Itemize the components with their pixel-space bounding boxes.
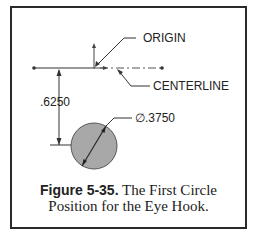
figure-number: Figure 5-35. <box>40 182 119 198</box>
centerline-leader <box>118 70 150 86</box>
figure-caption: Figure 5-35. The First Circle Position f… <box>12 182 245 214</box>
vertical-dimension-label: .6250 <box>40 95 70 109</box>
origin-x-arrow <box>103 66 108 70</box>
centerline-endpoint <box>160 66 164 70</box>
diameter-leader <box>106 118 132 126</box>
caption-line1: The First Circle <box>119 182 217 198</box>
line-endpoint <box>32 66 36 70</box>
centerline-leader-arrow <box>117 69 123 75</box>
dim-arrow-bottom <box>57 138 62 145</box>
diameter-label: ∅.3750 <box>135 111 175 125</box>
caption-line2: Position for the Eye Hook. <box>12 198 245 214</box>
dim-arrow-top <box>57 69 62 76</box>
origin-leader-arrow <box>95 61 100 67</box>
origin-label: ORIGIN <box>143 31 186 45</box>
centerline-label: CENTERLINE <box>153 79 229 93</box>
origin-leader <box>97 38 136 65</box>
origin-y-arrow <box>92 43 96 48</box>
